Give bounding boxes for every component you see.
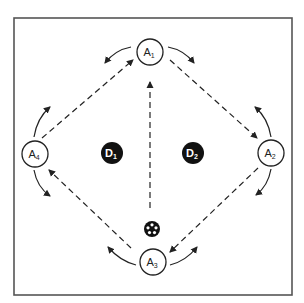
pass-arrow-a1-to-a2 [170, 60, 257, 138]
movement-arrow-a4 [34, 170, 50, 196]
pass-arrow-a2-to-a3 [170, 168, 258, 252]
movement-arrow-a3 [108, 247, 136, 265]
attacker-a3: A3 [140, 249, 166, 275]
movement-arrow-a1 [168, 47, 194, 63]
defenders: D1D2 [101, 142, 204, 164]
attacker-a1: A1 [137, 39, 163, 65]
attacker-a4: A4 [22, 141, 48, 167]
movement-arrow-a2 [256, 169, 271, 195]
movement-arrow-a4 [34, 107, 50, 137]
defender-d1: D1 [101, 142, 123, 164]
soccer-ball-icon [144, 221, 160, 237]
rondo-diagram: D1D2 A1A2A3A4 [0, 0, 304, 303]
attacker-a2: A2 [258, 140, 284, 166]
pass-arrow-a4-to-a1 [42, 60, 133, 138]
movement-arrow-a3 [170, 247, 197, 265]
defender-d2: D2 [182, 142, 204, 164]
movement-arrow-a1 [105, 47, 131, 63]
pass-arrow-a3-to-a4 [49, 170, 131, 248]
movement-arrow-a2 [255, 107, 271, 137]
attackers: A1A2A3A4 [22, 39, 284, 275]
